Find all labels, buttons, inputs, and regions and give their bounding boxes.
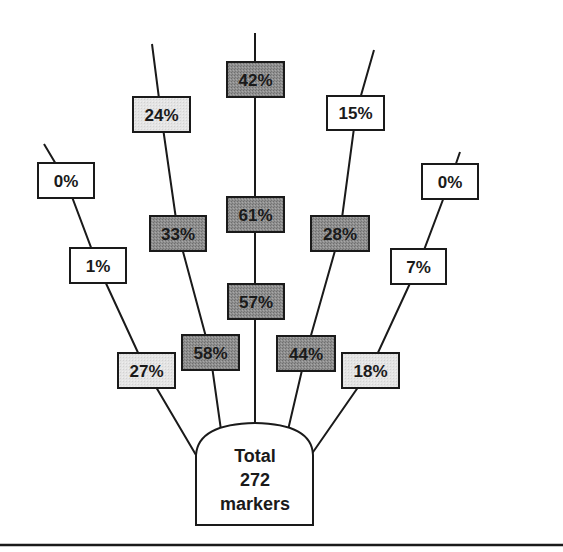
pct-box: 61% (227, 197, 284, 232)
pct-box: 33% (150, 216, 206, 251)
pct-label: 15% (338, 104, 372, 123)
pct-label: 0% (438, 173, 463, 192)
pct-box: 57% (228, 284, 284, 319)
pct-label: 24% (144, 106, 178, 125)
pct-label: 58% (193, 344, 227, 363)
pct-box: 1% (70, 248, 126, 283)
pct-label: 1% (86, 257, 111, 276)
pct-label: 42% (238, 71, 272, 90)
total-count: 272 (240, 470, 270, 490)
pct-box: 58% (182, 335, 239, 370)
marker-tree-diagram: Total 272 markers 27% 1% 0% 58% 33% 24% … (0, 0, 563, 552)
pct-box: 42% (227, 62, 284, 97)
total-node: Total 272 markers (196, 423, 313, 525)
pct-box: 28% (311, 216, 369, 251)
pct-box: 24% (133, 97, 190, 132)
pct-label: 27% (129, 362, 163, 381)
pct-label: 28% (323, 225, 357, 244)
total-label-line3: markers (220, 494, 290, 514)
pct-label: 18% (353, 362, 387, 381)
pct-label: 61% (238, 206, 272, 225)
pct-box: 0% (38, 163, 94, 198)
pct-box: 18% (342, 353, 399, 388)
pct-label: 0% (54, 172, 79, 191)
pct-label: 57% (239, 293, 273, 312)
pct-label: 44% (289, 345, 323, 364)
pct-box: 44% (277, 336, 335, 371)
pct-box: 27% (118, 353, 175, 388)
total-label-line1: Total (234, 446, 276, 466)
pct-label: 33% (161, 225, 195, 244)
pct-box: 0% (422, 164, 478, 199)
pct-label: 7% (406, 258, 431, 277)
pct-box: 15% (327, 96, 384, 130)
pct-box: 7% (391, 249, 446, 284)
